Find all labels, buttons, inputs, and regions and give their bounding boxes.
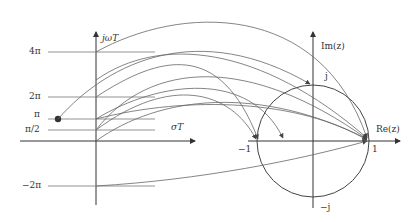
tick-label-pi: π (34, 110, 40, 119)
im-axis-label: Im(z) (321, 42, 345, 51)
re-axis-label: Re(z) (376, 125, 400, 134)
label-one: 1 (372, 145, 378, 154)
s-plane-tick-lines (48, 52, 155, 186)
s-to-z-mapping-diagram (0, 0, 420, 222)
tick-label-2pi: 2π (29, 92, 41, 101)
jw-axis-label: jωT (102, 34, 118, 43)
label-j: j (325, 72, 328, 81)
z-plane-axes (248, 32, 400, 208)
sigma-axis-label: σT (171, 123, 183, 132)
tick-label-4pi: 4π (29, 47, 41, 56)
label-minus-j: −j (320, 203, 330, 212)
tick-label-pi-half: π/2 (25, 125, 40, 134)
tick-label-minus-2pi: −2π (22, 181, 41, 190)
label-minus-one: −1 (238, 145, 251, 154)
s-plane-axes (20, 32, 195, 205)
